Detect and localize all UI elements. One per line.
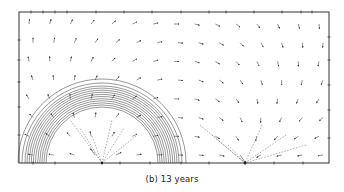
displacement-front-bands <box>18 79 186 163</box>
figure-caption: (b) 13 years <box>0 174 344 184</box>
velocity-field-figure <box>0 0 344 192</box>
injection-well-marker <box>101 162 103 164</box>
production-well-marker <box>244 162 247 165</box>
streamlines-to-sink <box>70 120 306 163</box>
